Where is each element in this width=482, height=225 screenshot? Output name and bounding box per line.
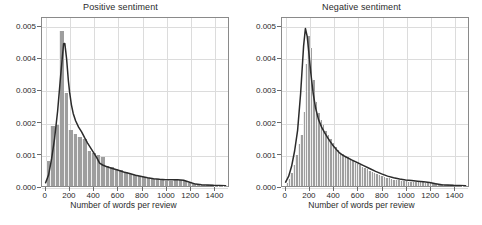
ytick-mark [37,154,41,155]
xtick-mark [454,187,455,191]
xtick-mark [69,187,70,191]
panel-negative-sentiment: Negative sentiment 0.0000.0010.0020.0030… [241,0,482,225]
plot-area-negative [281,17,469,187]
xtick-label: 200 [302,191,315,200]
ytick-label: 0.000 [241,183,276,192]
ytick-mark [37,90,41,91]
xtick-mark [214,187,215,191]
xtick-label: 1400 [206,191,224,200]
kde-curve-positive [42,18,228,186]
xtick-label: 800 [135,191,148,200]
xtick-mark [45,187,46,191]
xtick-mark [166,187,167,191]
xtick-mark [430,187,431,191]
xtick-label: 800 [375,191,388,200]
xtick-mark [285,187,286,191]
xtick-label: 1400 [446,191,464,200]
kde-curve-negative [282,18,468,186]
ytick-label: 0.003 [241,86,276,95]
ytick-mark [37,122,41,123]
ytick-label: 0.002 [0,118,36,127]
ytick-mark [37,187,41,188]
ytick-label: 0.005 [0,22,36,31]
panel-positive-sentiment: Positive sentiment 0.0000.0010.0020.0030… [0,0,241,225]
xaxis-title-positive: Number of words per review [6,200,241,210]
ytick-mark [277,26,281,27]
xtick-mark [93,187,94,191]
xtick-mark [333,187,334,191]
xtick-mark [117,187,118,191]
ytick-label: 0.003 [0,86,36,95]
xtick-label: 600 [111,191,124,200]
ytick-label: 0.002 [241,118,276,127]
ytick-mark [277,154,281,155]
ytick-mark [277,58,281,59]
xtick-mark [357,187,358,191]
ytick-mark [37,26,41,27]
ytick-label: 0.005 [241,22,276,31]
gridline-horizontal [282,188,468,189]
xtick-mark [406,187,407,191]
ytick-mark [37,58,41,59]
xtick-label: 1000 [157,191,175,200]
xtick-mark [382,187,383,191]
xtick-label: 400 [326,191,339,200]
xtick-label: 0 [282,191,286,200]
ytick-label: 0.004 [241,54,276,63]
ytick-label: 0.001 [0,150,36,159]
ytick-label: 0.004 [0,54,36,63]
ytick-label: 0.001 [241,150,276,159]
xtick-label: 1200 [421,191,439,200]
xtick-label: 1000 [397,191,415,200]
xtick-label: 1200 [181,191,199,200]
xtick-label: 0 [42,191,46,200]
kde-line [286,28,466,185]
xtick-mark [142,187,143,191]
gridline-horizontal [42,188,228,189]
panel-title-positive: Positive sentiment [0,2,241,12]
ytick-label: 0.000 [0,183,36,192]
xtick-label: 400 [86,191,99,200]
kde-line [46,43,226,185]
panel-title-negative: Negative sentiment [241,2,482,12]
xtick-mark [309,187,310,191]
sentiment-histograms-figure: Positive sentiment 0.0000.0010.0020.0030… [0,0,482,225]
ytick-mark [277,187,281,188]
xtick-label: 600 [351,191,364,200]
ytick-mark [277,90,281,91]
xaxis-title-negative: Number of words per review [241,200,482,210]
xtick-mark [190,187,191,191]
xtick-label: 200 [62,191,75,200]
plot-area-positive [41,17,229,187]
ytick-mark [277,122,281,123]
